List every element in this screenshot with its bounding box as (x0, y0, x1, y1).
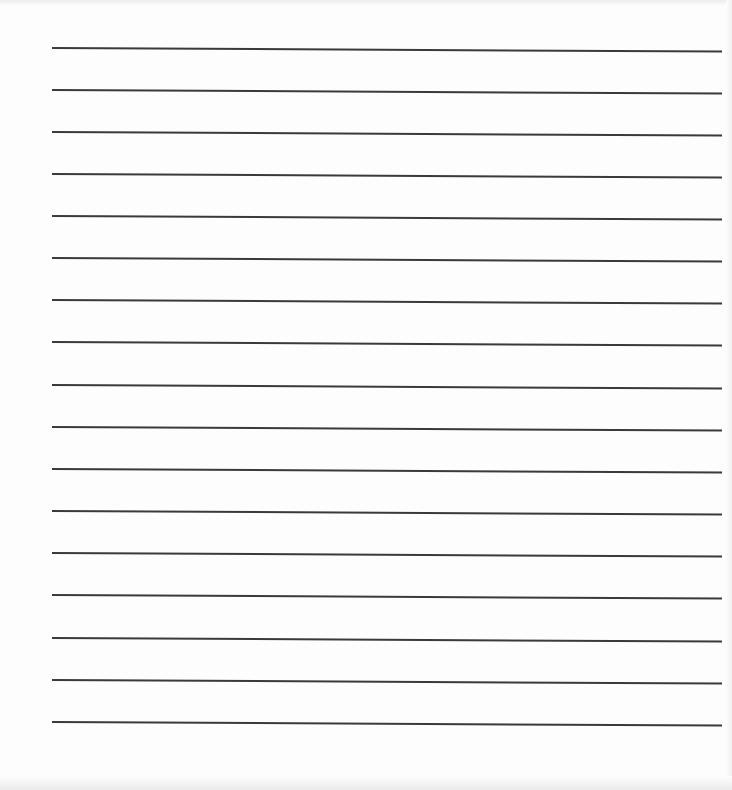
lined-paper (0, 0, 732, 790)
ruled-line (52, 552, 722, 558)
ruled-line (52, 299, 722, 305)
ruled-line (52, 426, 722, 432)
ruled-line (52, 131, 722, 137)
ruled-line (52, 89, 722, 95)
ruled-line (52, 594, 722, 600)
ruled-line (52, 215, 722, 221)
ruled-line (52, 173, 722, 179)
ruled-line (52, 384, 722, 390)
ruled-line (52, 468, 722, 474)
ruled-line (52, 510, 722, 516)
ruled-line (52, 47, 722, 53)
ruled-line (52, 679, 722, 685)
ruled-line (52, 341, 722, 347)
ruled-line (52, 637, 722, 643)
ruled-line (52, 721, 722, 727)
ruled-line (52, 257, 722, 263)
